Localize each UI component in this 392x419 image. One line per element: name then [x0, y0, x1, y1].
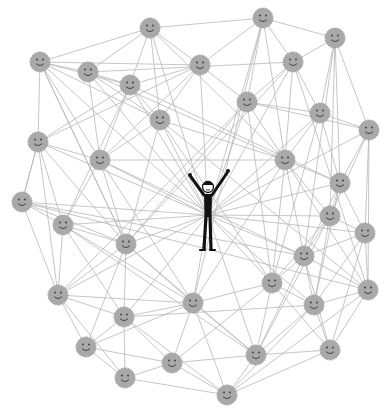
- figure-torso: [204, 194, 212, 217]
- smiley-face-icon: [114, 307, 134, 327]
- smiley-face-icon: [162, 353, 182, 373]
- smiley-face-icon: [355, 223, 375, 243]
- figure-connection-line: [208, 183, 340, 215]
- connection-line: [63, 225, 124, 317]
- smiley-face-icon: [217, 385, 237, 405]
- smiley-face-icon: [28, 132, 48, 152]
- smiley-face-icon: [183, 293, 203, 313]
- connection-line: [88, 72, 100, 160]
- smiley-face-icon: [325, 28, 345, 48]
- smiley-face-icon: [304, 295, 324, 315]
- figure-connection-line: [58, 215, 208, 295]
- smiley-face-icon: [359, 120, 379, 140]
- connection-line: [58, 295, 125, 378]
- connection-line: [320, 113, 340, 183]
- smiley-face-icon: [48, 285, 68, 305]
- smiley-face-icon: [53, 215, 73, 235]
- connection-line: [38, 65, 200, 142]
- figure-connection-line: [160, 120, 208, 215]
- connection-line: [160, 120, 368, 290]
- connection-line: [285, 160, 330, 216]
- connection-line: [256, 350, 330, 355]
- connection-line: [38, 62, 40, 142]
- connection-line: [130, 85, 340, 183]
- smiley-face-icon: [262, 273, 282, 293]
- connection-line: [247, 102, 369, 130]
- smiley-face-icon: [140, 18, 160, 38]
- smiley-face-icon: [76, 337, 96, 357]
- connection-line: [227, 305, 314, 395]
- connection-line: [263, 18, 335, 38]
- figure-left-leg: [204, 216, 206, 249]
- smiley-face-icon: [30, 52, 50, 72]
- smiley-face-icon: [150, 110, 170, 130]
- smiley-face-icon: [237, 92, 257, 112]
- connection-line: [63, 225, 256, 355]
- smiley-face-icon: [294, 246, 314, 266]
- connection-line: [38, 142, 126, 244]
- connection-line: [263, 18, 285, 160]
- connection-line: [150, 18, 263, 28]
- figure-right-leg: [210, 216, 211, 249]
- connection-line: [22, 202, 368, 290]
- connection-line: [22, 202, 58, 295]
- figure-connection-line: [208, 18, 263, 215]
- smiley-face-icon: [320, 206, 340, 226]
- connection-line: [335, 38, 369, 130]
- connection-line: [272, 160, 285, 283]
- smiley-face-icon: [275, 150, 295, 170]
- smiley-face-icon: [283, 52, 303, 72]
- smiley-face-icon: [320, 340, 340, 360]
- connection-line: [160, 120, 285, 160]
- connection-line: [88, 28, 150, 72]
- connection-line: [38, 142, 63, 225]
- connection-line: [124, 244, 126, 317]
- smiley-face-icon: [120, 75, 140, 95]
- connection-line: [247, 18, 263, 102]
- figure-connection-line: [208, 102, 247, 215]
- connection-line: [172, 355, 256, 363]
- smiley-face-icon: [12, 192, 32, 212]
- smiley-face-icon: [253, 8, 273, 28]
- connection-line: [100, 85, 130, 160]
- smiley-face-icon: [246, 345, 266, 365]
- connection-line: [314, 216, 330, 305]
- connection-line: [40, 62, 126, 244]
- connection-line: [40, 28, 150, 62]
- smiley-face-icon: [78, 62, 98, 82]
- connection-line: [320, 38, 335, 113]
- smiley-face-icon: [116, 234, 136, 254]
- connection-line: [63, 160, 100, 225]
- connection-lines: [22, 18, 369, 395]
- smiley-face-icon: [330, 173, 350, 193]
- smiley-face-icon: [90, 150, 110, 170]
- connection-line: [335, 38, 340, 183]
- connection-line: [150, 28, 160, 120]
- smiley-face-icon: [190, 55, 210, 75]
- figure-connection-line: [208, 215, 272, 283]
- connection-line: [100, 160, 126, 244]
- connection-line: [58, 225, 63, 295]
- connection-line: [86, 347, 172, 363]
- figure-right-arm: [212, 173, 227, 195]
- connection-line: [40, 62, 200, 65]
- smiley-face-icon: [115, 368, 135, 388]
- network-illustration: [0, 0, 392, 419]
- smiley-face-icon: [358, 280, 378, 300]
- network-graph: [0, 0, 392, 419]
- smiley-face-icon: [310, 103, 330, 123]
- connection-line: [256, 305, 314, 355]
